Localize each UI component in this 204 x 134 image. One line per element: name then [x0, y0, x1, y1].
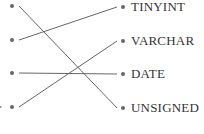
stray-mark	[0, 106, 2, 108]
right-dot-4[interactable]	[121, 106, 125, 110]
label-unsigned: UNSIGNED	[131, 101, 199, 115]
left-dot-2[interactable]	[10, 38, 14, 42]
line-l2-r1	[19, 7, 117, 40]
left-dot-4[interactable]	[10, 105, 14, 109]
label-tinyint: TINYINT	[131, 0, 185, 14]
line-l1-r4	[19, 6, 117, 108]
left-dot-1[interactable]	[10, 4, 14, 8]
label-varchar: VARCHAR	[131, 34, 194, 48]
label-date: DATE	[131, 67, 165, 81]
right-dot-3[interactable]	[121, 72, 125, 76]
left-dot-3[interactable]	[10, 71, 14, 75]
right-dot-2[interactable]	[121, 39, 125, 43]
right-dot-1[interactable]	[121, 5, 125, 9]
matching-diagram: TINYINT VARCHAR DATE UNSIGNED	[0, 0, 204, 134]
